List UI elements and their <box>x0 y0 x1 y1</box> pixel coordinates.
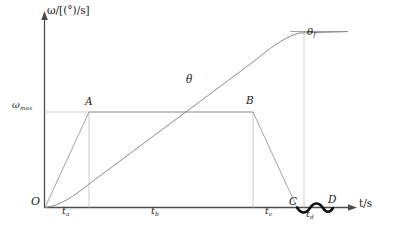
theta-displacement-curve <box>45 32 348 208</box>
y-axis-label: ω/[(°)/s] <box>47 5 90 16</box>
omega-max-base: ω <box>12 99 20 110</box>
t-d-tick-label: td <box>306 209 314 219</box>
point-b-label: B <box>246 95 254 106</box>
t-a-tick-label: ta <box>62 206 69 216</box>
theta-final-sub: f <box>313 31 315 38</box>
x-axis-label-unit: /s <box>363 197 372 209</box>
origin-label: O <box>31 196 40 207</box>
omega-max-tick-label: ωmax <box>12 100 32 110</box>
y-axis <box>41 11 48 208</box>
t-b-sub: b <box>155 211 159 217</box>
t-d-sub: d <box>310 214 314 220</box>
t-a-sub: a <box>66 211 70 217</box>
omega-profile-curve <box>45 112 297 208</box>
t-c-sub: c <box>269 211 272 217</box>
t-b-tick-label: tb <box>151 206 159 216</box>
point-c-label: C <box>289 196 297 207</box>
theta-final-label: θf <box>307 27 315 37</box>
point-d-label: D <box>328 194 336 205</box>
theta-curve-label: θ <box>186 74 192 85</box>
t-c-tick-label: tc <box>265 206 272 216</box>
y-axis-label-omega: ω <box>47 4 56 16</box>
angular-velocity-displacement-chart: ω/[(°)/s] t/s ωmax O A B C D θ θf ta tb … <box>0 0 395 239</box>
y-axis-label-unit: /[(°)/s] <box>56 4 90 16</box>
point-a-label: A <box>85 96 93 107</box>
x-axis-label: t/s <box>359 198 372 209</box>
omega-max-sub: max <box>20 105 32 111</box>
